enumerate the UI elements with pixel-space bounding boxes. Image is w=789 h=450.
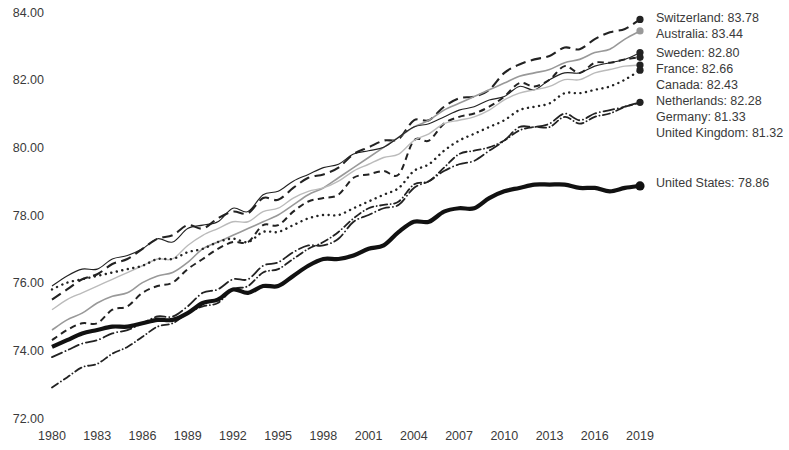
series-endpoint-dot (636, 99, 643, 106)
y-tick-label: 72.00 (13, 412, 44, 426)
x-tick-label: 1983 (83, 429, 111, 443)
x-tick-label: 2010 (490, 429, 518, 443)
y-tick-label: 78.00 (13, 209, 44, 223)
legend-item-france[interactable]: France: 82.66 (656, 62, 733, 76)
series-endpoint-dot (635, 181, 644, 190)
x-tick-label: 1992 (219, 429, 247, 443)
x-tick-label: 2004 (400, 429, 428, 443)
y-tick-label: 80.00 (13, 141, 44, 155)
y-tick-label: 82.00 (13, 73, 44, 87)
legend-item-australia[interactable]: Australia: 83.44 (656, 27, 743, 41)
x-tick-label: 1986 (129, 429, 157, 443)
chart-canvas: 84.0082.0080.0078.0076.0074.0072.00 1980… (0, 0, 789, 450)
legend-item-netherlands[interactable]: Netherlands: 82.28 (656, 94, 762, 108)
x-tick-label: 2007 (445, 429, 473, 443)
legend-item-sweden[interactable]: Sweden: 82.80 (656, 46, 739, 60)
x-tick-label: 2019 (626, 429, 654, 443)
legend-item-united-states[interactable]: United States: 78.86 (656, 176, 769, 190)
legend-item-germany[interactable]: Germany: 81.33 (656, 110, 746, 124)
x-tick-label: 1995 (264, 429, 292, 443)
x-tick-label: 2016 (581, 429, 609, 443)
legend-item-united-kingdom[interactable]: United Kingdom: 81.32 (656, 126, 783, 140)
life-expectancy-line-chart: 84.0082.0080.0078.0076.0074.0072.00 1980… (0, 0, 789, 450)
series-endpoint-dot (636, 27, 643, 34)
series-endpoint-dot (636, 67, 643, 74)
x-tick-label: 1980 (38, 429, 66, 443)
series-endpoint-dot (636, 54, 643, 61)
y-tick-label: 76.00 (13, 276, 44, 290)
x-tick-label: 1998 (309, 429, 337, 443)
y-tick-label: 74.00 (13, 344, 44, 358)
x-tick-label: 2013 (536, 429, 564, 443)
x-tick-label: 2001 (355, 429, 383, 443)
legend-item-switzerland[interactable]: Switzerland: 83.78 (656, 11, 759, 25)
series-endpoint-dot (636, 16, 643, 23)
legend-item-canada[interactable]: Canada: 82.43 (656, 78, 738, 92)
x-tick-label: 1989 (174, 429, 202, 443)
y-tick-label: 84.00 (13, 6, 44, 20)
